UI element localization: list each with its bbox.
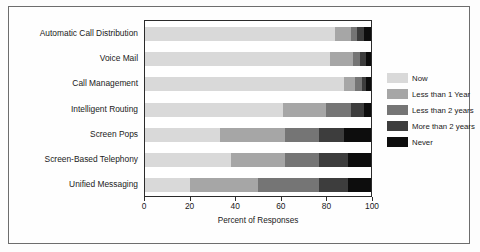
bar-segment xyxy=(145,52,330,66)
category-label: Unified Messaging xyxy=(69,179,138,189)
bar-segment xyxy=(344,128,371,142)
bar-segment xyxy=(351,27,358,41)
x-tick-label: 0 xyxy=(142,201,147,211)
bar-segment xyxy=(335,27,351,41)
legend-label: Less than 1 Year xyxy=(412,90,470,99)
bar-segment xyxy=(145,103,283,117)
legend-item: Never xyxy=(387,134,467,150)
x-axis-ticks: 020406080100 xyxy=(144,197,372,213)
legend-swatch xyxy=(387,89,408,99)
bar-segment xyxy=(357,27,364,41)
bar-segment xyxy=(319,178,348,192)
x-tick-label: 80 xyxy=(322,201,331,211)
legend-item: Less than 1 Year xyxy=(387,86,467,102)
chart-figure: Automatic Call DistributionVoice MailCal… xyxy=(0,0,480,252)
legend-label: Now xyxy=(412,74,428,83)
stacked-bars xyxy=(145,21,371,196)
legend-item: More than 2 years xyxy=(387,118,467,134)
category-label: Automatic Call Distribution xyxy=(40,28,138,38)
legend-label: Never xyxy=(412,138,433,147)
bar-segment xyxy=(145,27,335,41)
bar-segment xyxy=(283,103,326,117)
bar-segment xyxy=(348,178,371,192)
bar-segment xyxy=(330,52,353,66)
x-tick-label: 20 xyxy=(185,201,194,211)
bar-segment xyxy=(231,153,285,167)
legend-item: Less than 2 years xyxy=(387,102,467,118)
bar-segment xyxy=(319,153,348,167)
bar-row xyxy=(145,77,371,91)
chart-legend: NowLess than 1 YearLess than 2 yearsMore… xyxy=(387,70,467,150)
legend-item: Now xyxy=(387,70,467,86)
legend-label: Less than 2 years xyxy=(412,106,474,115)
bar-segment xyxy=(355,77,362,91)
category-label: Call Management xyxy=(72,78,138,88)
bar-segment xyxy=(364,103,371,117)
bar-row xyxy=(145,178,371,192)
legend-swatch xyxy=(387,73,408,83)
bar-segment xyxy=(360,52,367,66)
category-label: Screen Pops xyxy=(90,129,138,139)
bar-segment xyxy=(351,103,365,117)
bar-row xyxy=(145,103,371,117)
category-label: Intelligent Routing xyxy=(71,104,138,114)
bar-segment xyxy=(258,178,319,192)
x-tick-label: 60 xyxy=(276,201,285,211)
x-tick-label: 40 xyxy=(231,201,240,211)
bar-segment xyxy=(285,153,319,167)
bar-segment xyxy=(348,153,371,167)
x-tick-label: 100 xyxy=(365,201,379,211)
bar-segment xyxy=(145,128,220,142)
x-axis-title: Percent of Responses xyxy=(144,216,372,225)
category-label: Voice Mail xyxy=(100,53,138,63)
bar-segment xyxy=(285,128,319,142)
bar-segment xyxy=(364,27,371,41)
bar-segment xyxy=(190,178,258,192)
legend-swatch xyxy=(387,121,408,131)
legend-swatch xyxy=(387,137,408,147)
bar-segment xyxy=(366,52,371,66)
bar-segment xyxy=(220,128,286,142)
bar-segment xyxy=(366,77,371,91)
bar-segment xyxy=(326,103,351,117)
category-axis-labels: Automatic Call DistributionVoice MailCal… xyxy=(10,20,141,197)
bar-segment xyxy=(344,77,355,91)
bar-segment xyxy=(145,178,190,192)
bar-segment xyxy=(353,52,360,66)
category-label: Screen-Based Telephony xyxy=(45,154,138,164)
bar-row xyxy=(145,153,371,167)
legend-swatch xyxy=(387,105,408,115)
bar-row xyxy=(145,128,371,142)
bar-row xyxy=(145,52,371,66)
bar-segment xyxy=(145,77,344,91)
bar-segment xyxy=(145,153,231,167)
plot-area xyxy=(144,20,372,197)
bar-segment xyxy=(319,128,344,142)
legend-label: More than 2 years xyxy=(412,122,475,131)
bar-row xyxy=(145,27,371,41)
